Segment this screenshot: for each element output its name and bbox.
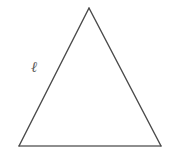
- triangle-edge-right: [89, 8, 161, 146]
- side-length-label-l: ℓ: [31, 60, 37, 75]
- geometry-figure: ℓ: [0, 0, 170, 155]
- triangle-edge-left: [19, 8, 89, 146]
- triangle-drawing: [0, 0, 170, 155]
